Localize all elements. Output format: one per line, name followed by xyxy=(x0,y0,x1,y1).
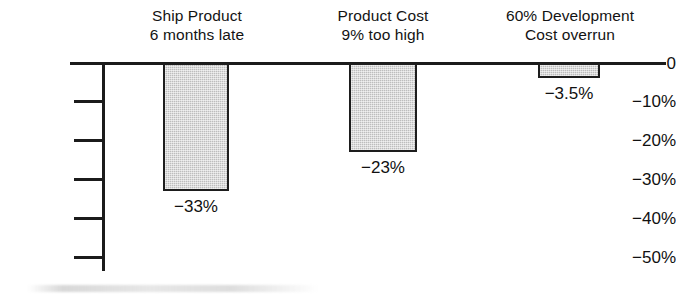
bar-value-label-1: −33% xyxy=(156,198,236,215)
bar-ship-product-late xyxy=(163,63,229,191)
y-tick-mark-0 xyxy=(74,62,103,65)
column-header-1-line2: 6 months late xyxy=(122,25,272,44)
column-header-1-line1: Ship Product xyxy=(122,6,272,25)
column-header-3: 60% Development Cost overrun xyxy=(484,6,656,44)
y-tick-label-50: −50% xyxy=(606,249,676,266)
y-tick-label-10: −10% xyxy=(606,93,676,110)
column-header-2: Product Cost 9% too high xyxy=(308,6,458,44)
y-tick-mark-20 xyxy=(74,139,103,142)
y-tick-mark-50 xyxy=(74,256,103,259)
column-header-3-line2: Cost overrun xyxy=(484,25,656,44)
column-header-3-line1: 60% Development xyxy=(484,6,656,25)
column-header-2-line1: Product Cost xyxy=(308,6,458,25)
y-tick-label-20: −20% xyxy=(606,132,676,149)
bar-value-label-2: −23% xyxy=(343,159,423,176)
y-tick-mark-40 xyxy=(74,217,103,220)
bar-chart: Ship Product 6 months late Product Cost … xyxy=(0,0,676,296)
column-header-2-line2: 9% too high xyxy=(308,25,458,44)
scan-artifact-smudge xyxy=(28,285,318,292)
column-header-1: Ship Product 6 months late xyxy=(122,6,272,44)
bar-development-cost-overrun xyxy=(538,63,600,78)
y-tick-label-40: −40% xyxy=(606,210,676,227)
y-tick-mark-10 xyxy=(74,100,103,103)
y-tick-label-0: 0 xyxy=(606,55,676,72)
y-tick-label-30: −30% xyxy=(606,171,676,188)
y-axis-spine xyxy=(102,62,105,271)
bar-product-cost-high xyxy=(349,63,417,152)
bar-value-label-3: −3.5% xyxy=(524,85,614,102)
y-tick-mark-30 xyxy=(74,178,103,181)
